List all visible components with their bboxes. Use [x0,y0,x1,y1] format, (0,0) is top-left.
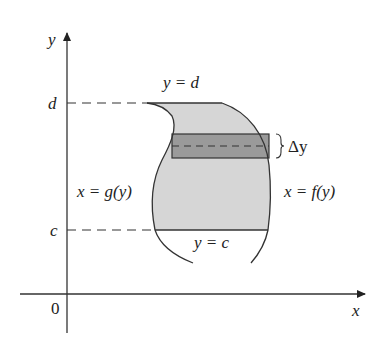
origin-label: 0 [51,299,60,318]
right-curve-label: x = f(y) [283,182,335,201]
top-boundary-label: y = d [161,73,200,92]
c-label: c [50,221,58,240]
x-axis-label: x [351,301,360,320]
d-label: d [48,94,57,113]
region-diagram: y x 0 d c y = d y = c x = g(y) x = f(y) … [0,0,384,353]
delta-y-brace [276,134,284,158]
shaded-region [147,103,271,230]
bottom-boundary-label: y = c [192,233,230,252]
left-curve-label: x = g(y) [76,182,132,201]
delta-y-label: Δy [288,137,308,156]
y-axis-label: y [46,30,56,49]
